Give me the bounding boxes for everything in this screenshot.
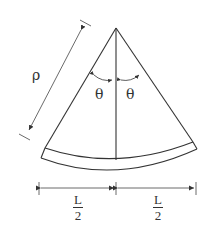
angle-arc-right <box>121 75 139 80</box>
sector-outline <box>41 28 197 170</box>
right-radius-line <box>116 28 193 142</box>
angle-label-right: θ <box>126 87 134 101</box>
fraction-denominator: 2 <box>75 208 82 222</box>
angle-label-left: θ <box>95 87 103 101</box>
half-length-label-right: L 2 <box>153 193 163 222</box>
fraction-numerator: L <box>73 193 83 208</box>
radius-tick-bottom <box>19 134 30 140</box>
inner-arc <box>45 142 193 159</box>
radius-label: ρ <box>32 68 40 82</box>
radius-dimension <box>19 20 91 140</box>
outer-arc <box>41 149 197 170</box>
beam-left-end <box>41 148 45 158</box>
length-dimension <box>39 182 196 195</box>
sector-diagram <box>0 0 211 228</box>
beam-right-end <box>193 142 197 149</box>
left-radius-line <box>45 28 116 148</box>
angle-arc-left <box>94 75 112 80</box>
half-length-label-left: L 2 <box>73 193 83 222</box>
fraction-denominator: 2 <box>155 208 162 222</box>
radius-tick-top <box>80 20 91 26</box>
fraction-numerator: L <box>153 193 163 208</box>
